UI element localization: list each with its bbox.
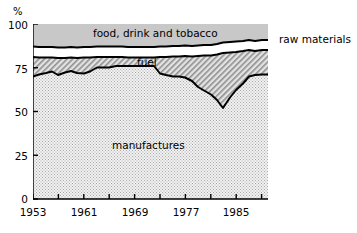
series-label-food-drink-tobacco: food, drink and tobacco	[92, 27, 219, 39]
chart-figure: % 100 75 50 25 0 1953 1961 1969 1977 198…	[0, 0, 357, 233]
y-tick-label-75: 75	[2, 63, 28, 75]
series-label-raw-materials: raw materials	[279, 33, 351, 45]
y-tick-label-50: 50	[2, 106, 28, 118]
y-tick-label-100: 100	[2, 19, 28, 31]
series-label-fuel: fuel	[136, 56, 158, 68]
y-tick-label-0: 0	[2, 193, 28, 205]
y-axis-unit-label: %	[13, 6, 23, 17]
plot-area	[33, 24, 268, 199]
series-label-manufactures: manufactures	[112, 139, 185, 151]
y-tick-label-25: 25	[2, 150, 28, 162]
